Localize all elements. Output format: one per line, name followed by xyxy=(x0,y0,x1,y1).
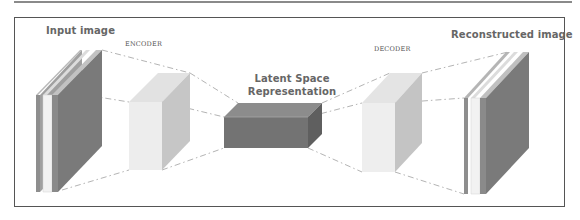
latent-front-face xyxy=(224,117,308,148)
connector-encoder-latent-top xyxy=(190,73,238,103)
decoder-front-face xyxy=(362,103,395,172)
latent-space-label-line1: Latent Space xyxy=(236,72,348,85)
decoder-label: DECODER xyxy=(374,45,411,53)
latent-space-block xyxy=(224,103,322,148)
input-layer-1-front xyxy=(36,95,40,192)
latent-space-label: Latent Space Representation xyxy=(236,72,348,98)
output-layer-2-front xyxy=(471,98,480,194)
input-image-label: Input image xyxy=(46,25,115,36)
encoder-front-face xyxy=(129,102,162,170)
input-image-stack xyxy=(36,50,102,192)
latent-top-face xyxy=(224,103,322,117)
encoder-block xyxy=(129,73,190,170)
output-layer-3-spine xyxy=(480,98,486,194)
connector-latent-decoder-bottom xyxy=(308,148,362,172)
reconstructed-image-label: Reconstructed image xyxy=(451,29,573,40)
reconstructed-image-stack xyxy=(464,52,529,194)
latent-space-label-line2: Representation xyxy=(236,85,348,98)
input-layer-2-front xyxy=(43,95,52,192)
connector-input-encoder-top xyxy=(102,50,190,73)
input-layer-3-spine xyxy=(52,95,58,192)
output-layer-1-front xyxy=(464,98,468,194)
connector-decoder-output-bottom xyxy=(395,172,464,194)
encoder-label: ENCODER xyxy=(125,40,162,48)
connector-decoder-output-top xyxy=(422,52,508,73)
decoder-block xyxy=(362,73,422,172)
